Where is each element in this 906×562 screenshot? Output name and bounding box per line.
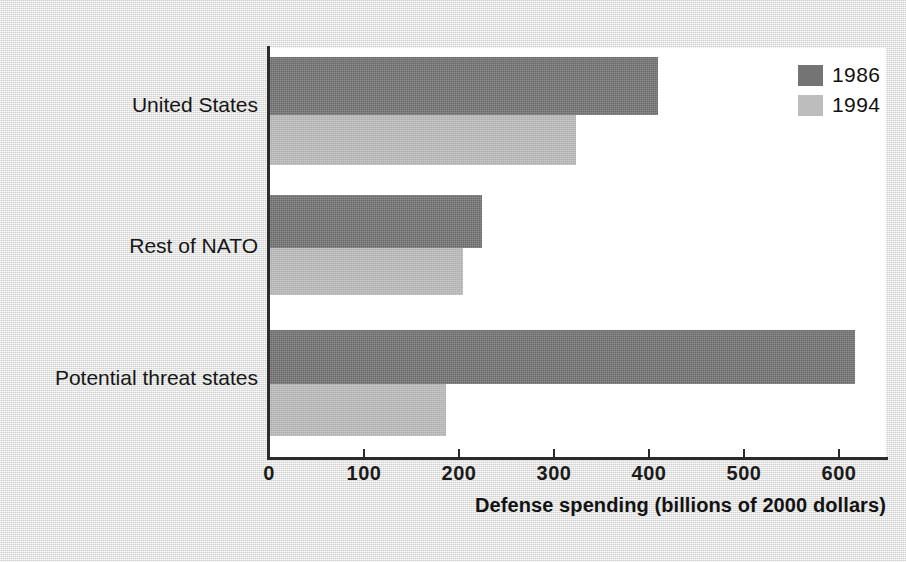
x-tick-label-500: 500: [727, 462, 762, 485]
x-tick-label-0: 0: [263, 462, 275, 485]
bar-potential-threat-states-1986: [268, 330, 855, 384]
x-tick-mark-600: [838, 449, 840, 458]
x-tick-mark-300: [553, 449, 555, 458]
x-tick-mark-500: [743, 449, 745, 458]
y-axis-line: [267, 46, 270, 460]
x-tick-mark-200: [458, 449, 460, 458]
x-tick-mark-400: [648, 449, 650, 458]
bar-potential-threat-states-1994: [268, 384, 446, 436]
legend-swatch-1994-icon: [798, 95, 823, 116]
x-tick-label-400: 400: [632, 462, 667, 485]
x-tick-mark-0: [268, 449, 270, 458]
legend-label-1994: 1994: [832, 93, 880, 117]
plot-area: [268, 48, 886, 458]
x-axis-title: Defense spending (billions of 2000 dolla…: [475, 494, 886, 517]
figure-root: 0 100 200 300 400 500 600 United States …: [0, 0, 906, 562]
x-axis-line: [267, 457, 888, 460]
bar-united-states-1986: [268, 57, 658, 115]
legend: 1986 1994: [798, 60, 880, 120]
bar-rest-of-nato-1994: [268, 248, 463, 295]
x-tick-label-600: 600: [822, 462, 857, 485]
legend-item-1994: 1994: [798, 90, 880, 120]
legend-item-1986: 1986: [798, 60, 880, 90]
x-tick-label-300: 300: [537, 462, 572, 485]
x-tick-label-100: 100: [347, 462, 382, 485]
category-label-rest-of-nato: Rest of NATO: [0, 234, 258, 258]
legend-label-1986: 1986: [832, 63, 880, 87]
bar-rest-of-nato-1986: [268, 195, 482, 248]
category-label-potential-threat-states: Potential threat states: [0, 366, 258, 390]
category-label-united-states: United States: [0, 93, 258, 117]
legend-swatch-1986-icon: [798, 65, 823, 86]
bar-united-states-1994: [268, 115, 576, 165]
x-tick-mark-100: [363, 449, 365, 458]
x-tick-label-200: 200: [442, 462, 477, 485]
